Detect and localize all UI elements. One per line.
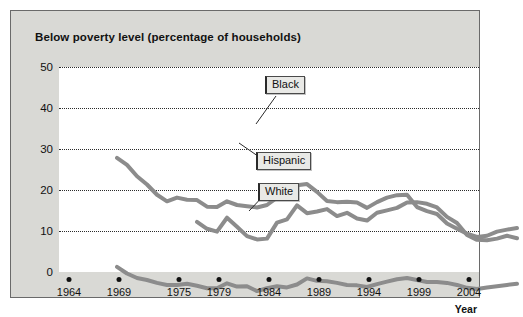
x-tick-dot-1999 — [417, 277, 422, 282]
page-title: Below poverty level (percentage of house… — [35, 31, 301, 43]
x-tick-label-1979: 1979 — [207, 286, 231, 298]
x-tick-label-1994: 1994 — [357, 286, 381, 298]
x-tick-dot-1994 — [367, 277, 372, 282]
x-tick-dot-2004 — [467, 277, 472, 282]
x-tick-label-1984: 1984 — [257, 286, 281, 298]
gridline-50 — [59, 67, 479, 69]
x-tick-label-1999: 1999 — [407, 286, 431, 298]
x-tick-dot-1969 — [117, 277, 122, 282]
gridline-40 — [59, 108, 479, 110]
callout-black: Black — [265, 76, 305, 94]
y-tick-label-10: 10 — [27, 225, 53, 237]
x-tick-dot-1975 — [177, 277, 182, 282]
y-tick-label-50: 50 — [27, 61, 53, 73]
x-tick-label-1964: 1964 — [57, 286, 81, 298]
x-tick-dot-1964 — [67, 277, 72, 282]
x-tick-label-1969: 1969 — [107, 286, 131, 298]
callout-white: White — [258, 183, 299, 201]
x-tick-label-1975: 1975 — [167, 286, 191, 298]
x-tick-label-1989: 1989 — [307, 286, 331, 298]
x-tick-label-2004: 2004 — [457, 286, 481, 298]
x-tick-dot-1979 — [217, 277, 222, 282]
y-tick-label-0: 0 — [27, 266, 53, 278]
y-tick-label-30: 30 — [27, 143, 53, 155]
y-tick-label-40: 40 — [27, 102, 53, 114]
callout-hispanic: Hispanic — [256, 152, 311, 170]
x-tick-dot-1984 — [267, 277, 272, 282]
x-tick-dot-1989 — [317, 277, 322, 282]
chart-panel: Below poverty level (percentage of house… — [10, 10, 480, 298]
y-tick-label-20: 20 — [27, 184, 53, 196]
x-axis-title: Year — [455, 303, 477, 315]
x-axis: Year 19641969197519791984198919941999200… — [59, 272, 479, 312]
y-axis-labels: 01020304050 — [27, 67, 53, 272]
